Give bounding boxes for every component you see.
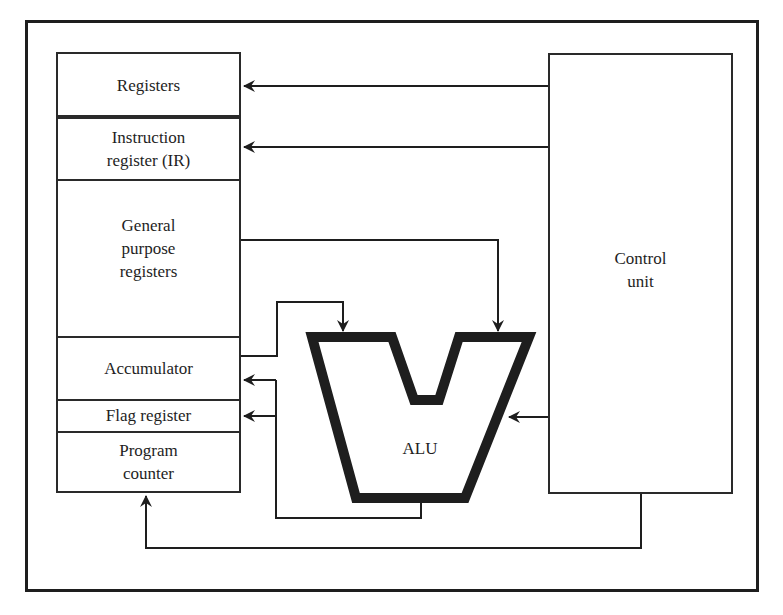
control-unit-label: Control unit	[550, 247, 731, 293]
register-cell-instruction-register: Instruction register (IR)	[58, 119, 239, 179]
accumulator-label: Accumulator	[104, 357, 193, 380]
instruction-register-label: Instruction register (IR)	[107, 126, 191, 172]
register-cell-program-counter: Program counter	[58, 432, 239, 492]
alu-label: ALU	[385, 437, 455, 460]
flag-register-label: Flag register	[106, 404, 191, 427]
general-purpose-label: General purpose registers	[120, 214, 178, 283]
control-unit-box: Control unit	[548, 53, 733, 494]
arrow-gpr-to-alu	[240, 240, 498, 331]
program-counter-label: Program counter	[119, 439, 178, 485]
register-stack: Registers Instruction register (IR) Gene…	[56, 52, 241, 493]
alu-shape	[312, 337, 529, 498]
register-cell-general-purpose: General purpose registers	[58, 180, 239, 336]
register-cell-registers: Registers	[58, 54, 239, 116]
register-cell-accumulator: Accumulator	[58, 337, 239, 399]
register-cell-flag: Flag register	[58, 400, 239, 431]
registers-label: Registers	[117, 74, 180, 97]
